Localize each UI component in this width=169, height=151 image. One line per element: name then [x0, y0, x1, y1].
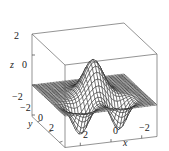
z-axis-label: z [10, 60, 14, 70]
z-tick-2: 2 [14, 31, 19, 41]
x-tick-0: 0 [113, 126, 118, 136]
z-tick-0: 0 [22, 60, 27, 70]
y-axis-label: y [28, 119, 32, 129]
z-tick-minus2: −2 [12, 92, 23, 102]
x-tick-2: 2 [83, 130, 88, 140]
x-axis-label: x [123, 138, 127, 148]
y-tick-0: 0 [38, 113, 43, 123]
y-tick-2: 2 [49, 123, 54, 133]
y-tick-minus2: −2 [20, 103, 31, 113]
x-tick-minus2: −2 [139, 123, 150, 133]
